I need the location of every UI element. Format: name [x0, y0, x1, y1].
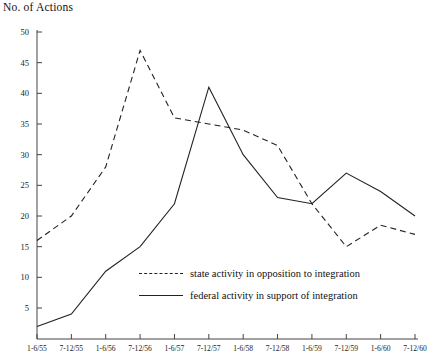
y-axis-tick-label: 50: [7, 27, 29, 37]
y-axis-tick-label: 10: [7, 272, 29, 282]
x-axis-tick-label: 7-12/55: [60, 344, 84, 353]
legend-item-federal: federal activity in support of integrati…: [139, 284, 360, 306]
y-axis-tick-label: 30: [7, 150, 29, 160]
x-axis-tick-label: 1-6/55: [27, 344, 47, 353]
x-axis-tick-label: 1-6/59: [302, 344, 322, 353]
x-axis-tick-label: 7-12/57: [197, 344, 221, 353]
y-axis-tick-label: 5: [7, 303, 29, 313]
y-axis-tick-label: 40: [7, 88, 29, 98]
y-axis-tick-label: 20: [7, 211, 29, 221]
legend-label-federal: federal activity in support of integrati…: [190, 290, 358, 301]
chart-legend: state activity in opposition to integrat…: [139, 262, 360, 306]
legend-swatch-solid-icon: [139, 295, 183, 297]
x-axis-tick-label: 7-12/56: [128, 344, 152, 353]
y-axis-tick-label: 25: [7, 180, 29, 190]
x-axis-tick-label: 1-6/60: [371, 344, 391, 353]
chart-series-line: [37, 50, 415, 246]
y-axis-ticks: [37, 32, 42, 308]
y-axis-tick-label: 35: [7, 119, 29, 129]
y-axis-tick-label: 15: [7, 242, 29, 252]
x-axis-tick-label: 7-12/59: [334, 344, 358, 353]
x-axis-ticks: [37, 334, 415, 339]
legend-swatch-dashed-icon: [139, 273, 183, 275]
x-axis-tick-label: 7-12/58: [266, 344, 290, 353]
chart-root: No. of Actions 5101520253035404550 1-6/5…: [0, 0, 439, 357]
x-axis-tick-label: 1-6/56: [96, 344, 116, 353]
x-axis-tick-label: 1-6/57: [165, 344, 185, 353]
x-axis-tick-label: 1-6/58: [233, 344, 253, 353]
x-axis-tick-label: 7-12/60: [403, 344, 427, 353]
legend-item-state: state activity in opposition to integrat…: [139, 262, 360, 284]
y-axis-tick-label: 45: [7, 58, 29, 68]
legend-label-state: state activity in opposition to integrat…: [190, 268, 360, 279]
